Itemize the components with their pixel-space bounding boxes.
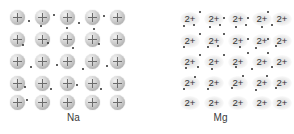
delocalised-electron: [235, 26, 237, 28]
plus-charge-icon: [60, 76, 75, 91]
metal-ion-mg: 2+: [204, 55, 224, 69]
metal-ion-mg: 2+: [252, 55, 272, 69]
delocalised-electron: [231, 87, 233, 89]
delocalised-electron: [93, 28, 95, 30]
delocalised-electron: [251, 68, 253, 70]
metal-ion-na: [60, 10, 75, 25]
metal-ion-mg: 2+: [272, 55, 292, 69]
metal-ion-na: [10, 10, 25, 25]
plus-charge-icon: [85, 76, 100, 91]
delocalised-electron: [47, 42, 49, 44]
plus-charge-icon: [110, 95, 125, 110]
delocalised-electron: [50, 88, 52, 90]
delocalised-electron: [40, 25, 42, 27]
delocalised-electron: [223, 17, 225, 19]
delocalised-electron: [255, 47, 257, 49]
delocalised-electron: [22, 44, 24, 46]
plus-charge-icon: [60, 10, 75, 25]
metal-ion-na: [85, 95, 100, 110]
delocalised-electron: [103, 15, 105, 17]
na-lattice: [0, 0, 147, 112]
plus-charge-icon: [10, 95, 25, 110]
delocalised-electron: [199, 11, 201, 13]
delocalised-electron: [207, 46, 209, 48]
delocalised-electron: [28, 20, 30, 22]
metal-ion-na: [110, 54, 125, 69]
delocalised-electron: [255, 89, 257, 91]
metal-ion-na: [110, 76, 125, 91]
delocalised-electron: [267, 38, 269, 40]
metal-ion-na: [85, 54, 100, 69]
delocalised-electron: [100, 88, 102, 90]
delocalised-electron: [53, 14, 55, 16]
delocalised-electron: [197, 66, 199, 68]
metal-ion-na: [60, 76, 75, 91]
delocalised-electron: [223, 54, 225, 56]
delocalised-electron: [211, 68, 213, 70]
metal-ion-na: [10, 54, 25, 69]
plus-charge-icon: [110, 76, 125, 91]
mg-caption: Mg: [147, 112, 294, 123]
delocalised-electron: [223, 33, 225, 35]
delocalised-electron: [235, 66, 237, 68]
metal-ion-mg: 2+: [252, 12, 272, 26]
delocalised-electron: [183, 25, 185, 27]
plus-charge-icon: [10, 10, 25, 25]
delocalised-electron: [66, 27, 68, 29]
metal-ion-mg: 2+: [272, 12, 292, 26]
metal-ion-mg: 2+: [228, 55, 248, 69]
metal-ion-na: [85, 10, 100, 25]
delocalised-electron: [267, 11, 269, 13]
delocalised-electron: [199, 54, 201, 56]
metal-ion-mg: 2+: [272, 96, 292, 110]
plus-charge-icon: [35, 54, 50, 69]
delocalised-electron: [209, 26, 211, 28]
plus-charge-icon: [35, 10, 50, 25]
delocalised-electron: [275, 87, 277, 89]
metal-ion-na: [60, 32, 75, 47]
metal-ion-mg: 2+: [180, 12, 200, 26]
delocalised-electron: [72, 47, 74, 49]
metal-ion-na: [110, 32, 125, 47]
delocalised-electron: [183, 88, 185, 90]
plus-charge-icon: [85, 95, 100, 110]
metal-ion-na: [85, 76, 100, 91]
delocalised-electron: [219, 24, 221, 26]
delocalised-electron: [76, 84, 78, 86]
delocalised-electron: [266, 75, 268, 77]
delocalised-electron: [247, 52, 249, 54]
delocalised-electron: [247, 17, 249, 19]
delocalised-electron: [106, 65, 108, 67]
metal-ion-mg: 2+: [228, 34, 248, 48]
plus-charge-icon: [35, 95, 50, 110]
metal-ion-mg: 2+: [204, 96, 224, 110]
delocalised-electron: [30, 66, 32, 68]
plus-charge-icon: [10, 54, 25, 69]
metal-ion-mg: 2+: [252, 96, 272, 110]
delocalised-electron: [24, 86, 26, 88]
delocalised-electron: [56, 64, 58, 66]
delocalised-electron: [271, 24, 273, 26]
plus-charge-icon: [85, 54, 100, 69]
delocalised-electron: [194, 76, 196, 78]
delocalised-electron: [271, 66, 273, 68]
delocalised-electron: [239, 46, 241, 48]
metal-ion-na: [10, 95, 25, 110]
plus-charge-icon: [60, 54, 75, 69]
delocalised-electron: [26, 99, 28, 101]
metal-ion-mg: 2+: [204, 12, 224, 26]
metal-ion-mg: 2+: [252, 34, 272, 48]
delocalised-electron: [261, 26, 263, 28]
delocalised-electron: [275, 45, 277, 47]
plus-charge-icon: [10, 76, 25, 91]
delocalised-electron: [199, 33, 201, 35]
plus-charge-icon: [110, 54, 125, 69]
metal-ion-mg: 2+: [180, 96, 200, 110]
delocalised-electron: [267, 52, 269, 54]
delocalised-electron: [217, 45, 219, 47]
metal-ion-na: [35, 95, 50, 110]
metal-ion-na: [110, 95, 125, 110]
plus-charge-icon: [35, 32, 50, 47]
metal-ion-na: [60, 95, 75, 110]
delocalised-electron: [242, 75, 244, 77]
